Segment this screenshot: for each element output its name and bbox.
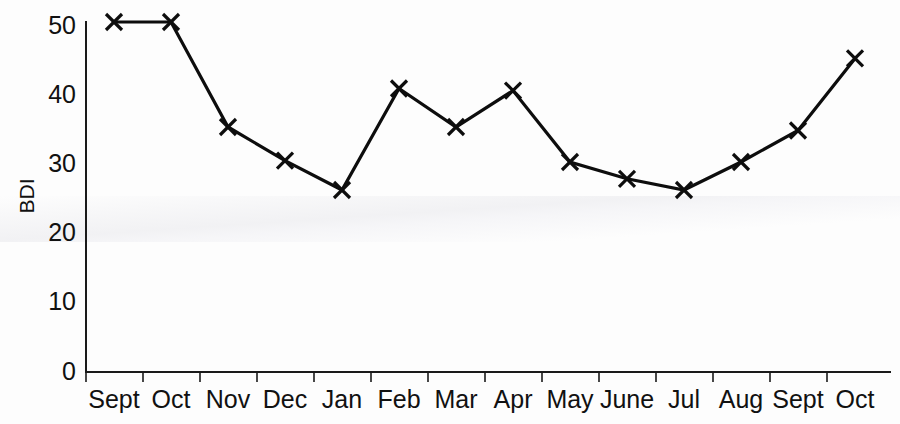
x-tick-label: Feb — [377, 385, 420, 413]
x-tick-label: Sept — [88, 385, 139, 413]
x-tick-label: Jul — [668, 385, 700, 413]
x-tick-label: Oct — [836, 385, 875, 413]
x-tick-label: June — [600, 385, 654, 413]
y-tick-label: 30 — [48, 149, 76, 177]
x-tick-label: Nov — [206, 385, 251, 413]
x-tick-label: Oct — [152, 385, 191, 413]
x-tick-label: Jan — [322, 385, 362, 413]
x-tick-label: Aug — [719, 385, 763, 413]
bdi-line-chart: 50 40 30 20 10 0 BDI Sep — [0, 0, 900, 424]
x-tick-label: Sept — [772, 385, 823, 413]
y-tick-label: 20 — [48, 218, 76, 246]
y-tick-label: 0 — [62, 357, 76, 385]
x-tick-label: Apr — [494, 385, 533, 413]
x-tick-label: Mar — [434, 385, 477, 413]
y-axis-title: BDI — [15, 178, 38, 213]
chart-page: 50 40 30 20 10 0 BDI Sep — [0, 0, 900, 424]
y-tick-label: 40 — [48, 80, 76, 108]
x-tick-label: Dec — [263, 385, 307, 413]
y-tick-label: 10 — [48, 287, 76, 315]
x-tick-label: May — [546, 385, 594, 413]
plot-background — [0, 0, 900, 424]
y-tick-label: 50 — [48, 11, 76, 39]
